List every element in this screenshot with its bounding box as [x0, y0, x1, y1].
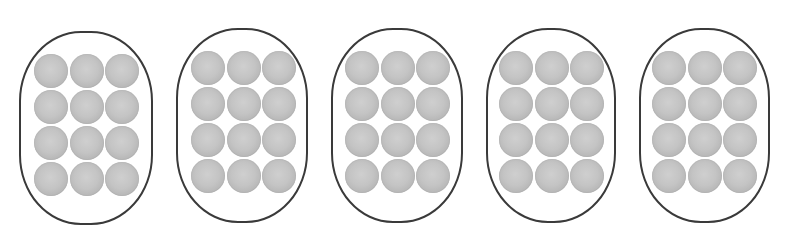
ball	[34, 54, 68, 88]
ball	[345, 123, 379, 157]
ball	[723, 87, 757, 121]
ball	[262, 123, 296, 157]
ball	[535, 123, 569, 157]
ball	[416, 87, 450, 121]
ball	[70, 162, 104, 196]
ball	[345, 87, 379, 121]
ball	[381, 87, 415, 121]
ball	[535, 159, 569, 193]
ball	[416, 159, 450, 193]
ball	[34, 90, 68, 124]
ball	[227, 51, 261, 85]
ball	[227, 159, 261, 193]
ball	[652, 123, 686, 157]
ball	[499, 123, 533, 157]
ball-grid	[652, 51, 758, 194]
ball-group-3	[331, 28, 463, 223]
ball	[652, 51, 686, 85]
ball	[652, 159, 686, 193]
ball	[416, 123, 450, 157]
ball-group-2	[176, 28, 308, 223]
ball	[191, 159, 225, 193]
ball	[723, 159, 757, 193]
ball	[499, 87, 533, 121]
ball	[381, 51, 415, 85]
ball	[70, 126, 104, 160]
ball	[191, 51, 225, 85]
ball	[34, 126, 68, 160]
ball	[570, 159, 604, 193]
ball	[499, 51, 533, 85]
ball	[381, 159, 415, 193]
ball	[688, 87, 722, 121]
ball	[227, 123, 261, 157]
ball	[570, 87, 604, 121]
ball	[227, 87, 261, 121]
ball	[345, 159, 379, 193]
ball	[535, 87, 569, 121]
ball	[570, 51, 604, 85]
ball	[105, 162, 139, 196]
diagram-description: Five groups of 12 balls each	[0, 0, 1, 1]
ball-grid	[191, 51, 297, 194]
ball	[652, 87, 686, 121]
ball	[34, 162, 68, 196]
ball	[499, 159, 533, 193]
ball	[688, 51, 722, 85]
ball	[262, 159, 296, 193]
ball-group-5	[639, 28, 770, 223]
ball	[105, 90, 139, 124]
ball	[688, 123, 722, 157]
ball-grid	[345, 51, 451, 194]
diagram-canvas: Five groups of 12 balls each	[0, 0, 789, 236]
ball-grid	[34, 54, 140, 197]
ball	[345, 51, 379, 85]
ball	[723, 51, 757, 85]
ball	[262, 51, 296, 85]
ball	[70, 90, 104, 124]
ball	[688, 159, 722, 193]
ball	[381, 123, 415, 157]
ball-group-1	[19, 31, 153, 225]
ball	[535, 51, 569, 85]
ball	[723, 123, 757, 157]
ball	[191, 87, 225, 121]
ball	[105, 54, 139, 88]
ball	[416, 51, 450, 85]
ball-group-4	[486, 28, 616, 223]
ball	[191, 123, 225, 157]
ball	[262, 87, 296, 121]
ball-grid	[499, 51, 605, 194]
ball	[570, 123, 604, 157]
ball	[105, 126, 139, 160]
ball	[70, 54, 104, 88]
